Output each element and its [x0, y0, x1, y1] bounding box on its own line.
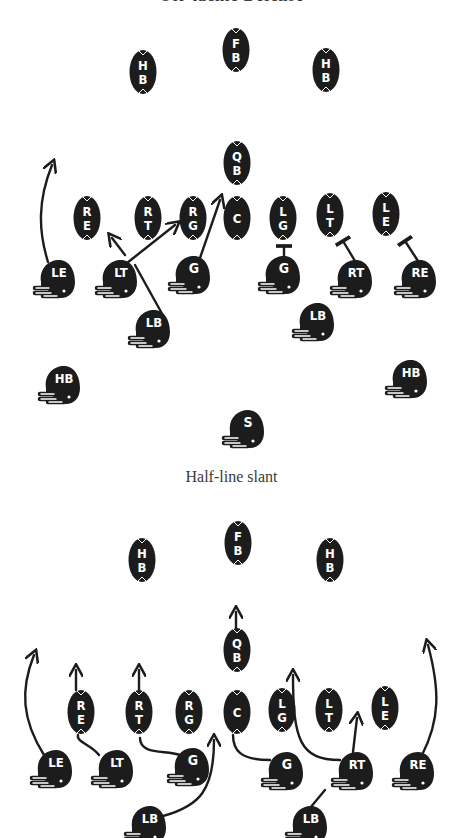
helmet-label: LB — [142, 811, 158, 826]
oval-label: Q — [232, 149, 242, 164]
oval-label: L — [278, 696, 286, 711]
route-line-rt-up — [353, 718, 357, 752]
oval-label: H — [321, 56, 331, 71]
oval-label: H — [325, 546, 335, 561]
route-line-lt — [112, 238, 125, 255]
helmet-label: HB — [55, 371, 74, 386]
oval-label: T — [135, 712, 143, 727]
helmet-label: RE — [410, 757, 427, 772]
oval-label: R — [76, 698, 85, 713]
play-diagram-canvas: HBFBHBQBRERTRGCLGLTLEHBFBHBQBRERTRGCLGLT… — [0, 0, 463, 838]
defense-player-re: RE — [394, 752, 434, 790]
offense-player-hb: HB — [129, 538, 156, 582]
oval-label: C — [233, 211, 242, 226]
route-line-g-right — [233, 735, 270, 760]
route-line-le — [41, 165, 52, 262]
oval-label: R — [134, 698, 143, 713]
oval-label: L — [382, 200, 390, 215]
offense-player-qb: QB — [224, 628, 251, 672]
oval-label: B — [139, 72, 148, 87]
defense-player-s: S — [224, 410, 264, 448]
offense-player-rg: RG — [176, 690, 203, 734]
route-line-lb-right — [310, 790, 325, 808]
oval-label: H — [137, 546, 147, 561]
offense-player-rt: RT — [135, 196, 162, 240]
defense-player-lb: LB — [130, 310, 170, 348]
offense-player-rt: RT — [126, 690, 153, 734]
defense-player-lb: LB — [294, 303, 334, 341]
offense-player-lg: LG — [270, 196, 297, 240]
offense-player-c: C — [224, 690, 251, 734]
defense-player-rt: RT — [333, 752, 373, 790]
oval-label: R — [143, 204, 152, 219]
oval-label: T — [144, 218, 152, 233]
route-line-re — [405, 241, 418, 261]
oval-label: C — [233, 705, 242, 720]
route-line-re — [422, 645, 436, 755]
defense-player-lb: LB — [287, 806, 327, 838]
oval-label: B — [233, 650, 242, 665]
offense-player-lg: LG — [269, 688, 296, 732]
defense-player-g: G — [170, 256, 210, 294]
defense-player-lt: LT — [97, 260, 137, 298]
oval-label: T — [326, 215, 334, 230]
oval-label: B — [233, 163, 242, 178]
helmet-label: LT — [114, 265, 127, 280]
helmet-label: RT — [348, 265, 364, 280]
defense-player-le: LE — [35, 260, 75, 298]
offense-player-le: LE — [372, 686, 399, 730]
oval-label: G — [278, 218, 288, 233]
oval-label: G — [188, 218, 198, 233]
helmet-label: LB — [303, 811, 319, 826]
route-line-rt — [343, 241, 355, 261]
helmet-label: S — [243, 414, 252, 430]
helmet-label: RE — [412, 265, 429, 280]
helmet-label: LB — [146, 315, 162, 330]
offense-player-fb: FB — [223, 28, 250, 72]
oval-label: B — [138, 560, 147, 575]
helmet-label: G — [188, 752, 198, 768]
defense-player-hb: HB — [40, 366, 80, 404]
oval-label: E — [382, 214, 390, 229]
offense-player-lt: LT — [317, 193, 344, 237]
offense-player-c: C — [224, 196, 251, 240]
helmet-label: G — [189, 260, 199, 276]
offense-player-qb: QB — [224, 141, 251, 185]
oval-label: E — [77, 712, 85, 727]
defense-player-g: G — [263, 752, 303, 790]
defense-player-lb: LB — [126, 806, 166, 838]
helmet-label: LB — [310, 308, 326, 323]
helmet-label: G — [282, 756, 292, 772]
oval-label: F — [234, 529, 242, 544]
offense-player-re: RE — [68, 690, 95, 734]
offense-player-hb: HB — [313, 48, 340, 92]
helmet-label: LE — [48, 755, 63, 770]
offense-ovals-layer: HBFBHBQBRERTRGCLGLTLEHBFBHBQBRERTRGCLGLT… — [68, 28, 400, 734]
oval-label: L — [326, 201, 334, 216]
helmet-label: HB — [402, 365, 421, 380]
offense-player-lt: LT — [316, 688, 343, 732]
oval-label: B — [234, 543, 243, 558]
offense-player-hb: HB — [130, 50, 157, 94]
offense-player-rg: RG — [180, 196, 207, 240]
defense-player-hb: HB — [387, 360, 427, 398]
oval-label: B — [232, 50, 241, 65]
defense-player-g: G — [260, 256, 300, 294]
offense-player-hb: HB — [317, 538, 344, 582]
oval-label: E — [83, 218, 91, 233]
helmet-label: LT — [110, 755, 123, 770]
oval-label: L — [381, 694, 389, 709]
oval-label: T — [325, 710, 333, 725]
oval-label: L — [325, 696, 333, 711]
offense-player-re: RE — [74, 196, 101, 240]
oval-label: R — [188, 204, 197, 219]
oval-label: B — [326, 560, 335, 575]
oval-label: H — [138, 58, 148, 73]
oval-label: R — [184, 698, 193, 713]
oval-label: F — [232, 36, 240, 51]
helmet-label: G — [279, 260, 289, 276]
offense-player-le: LE — [373, 192, 400, 236]
route-line-le — [25, 655, 44, 755]
defense-player-rt: RT — [332, 260, 372, 298]
defense-player-le: LE — [32, 750, 72, 788]
